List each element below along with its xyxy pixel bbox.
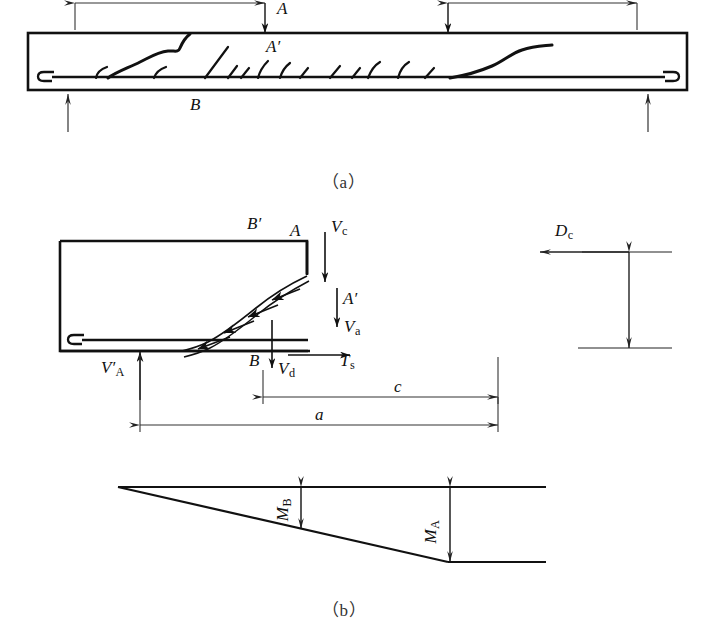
compression-depth-indicator [540,252,672,348]
label-Dc: Dc [555,222,573,242]
label-A-prime-panel-b: A′ [343,290,357,307]
label-Vd: Vd [278,360,295,380]
rebar-hook-right [663,72,679,81]
label-MB: MB [274,498,294,521]
freebody-rebar-hook [68,335,84,344]
label-A-panel-b: A [290,222,300,239]
load-dimension-right [448,3,637,30]
dimension-c [263,357,498,404]
label-A-panel-a: A [277,0,287,17]
flexural-cracks-right [330,62,434,78]
diagonal-crack-right [450,45,552,78]
label-B-panel-b: B [249,352,259,369]
panel-a-group [28,3,687,132]
label-Va: Va [344,318,360,338]
diagonal-crack-left [108,34,190,78]
label-VA-reaction: V′A [101,359,124,379]
caption-panel-b: （b） [322,596,366,621]
shear-failure-figure [0,0,709,628]
moment-diagram-group [118,487,546,562]
panel-b-freebody-group [60,232,672,432]
label-MA: MA [422,520,442,544]
label-dim-a: a [315,406,324,423]
label-dim-c: c [394,378,402,395]
load-dimension-left [75,3,265,30]
beam-outline [28,33,687,90]
label-Ts: Ts [340,352,355,372]
rebar-hook-left [38,72,54,81]
label-A-prime-panel-a: A′ [266,38,280,55]
label-B-panel-a: B [190,96,200,113]
label-B-prime-panel-b: B′ [247,215,261,232]
caption-panel-a: （a） [322,168,365,193]
label-Vc: Vc [331,218,347,238]
